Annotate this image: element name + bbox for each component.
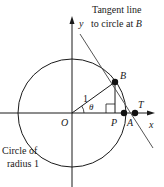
point-t: [132, 110, 138, 116]
point-a: [121, 110, 127, 116]
y-axis-arrow-icon: [70, 16, 75, 24]
label-b: B: [120, 70, 126, 81]
circle-annotation-line2: radius 1: [7, 158, 39, 169]
angle-theta-arc: [82, 106, 84, 113]
label-p: P: [110, 117, 117, 128]
right-angle-marker: [106, 104, 115, 113]
angle-label: θ: [89, 102, 94, 112]
tangent-line: [80, 34, 153, 148]
x-axis-label: x: [148, 119, 154, 130]
point-b: [112, 79, 118, 85]
x-axis-arrow-icon: [147, 111, 155, 116]
label-o: O: [61, 117, 68, 128]
radius-ob: [72, 82, 115, 113]
circle-annotation-line1: Circle of: [2, 145, 38, 156]
label-t: T: [138, 99, 145, 110]
tangent-annotation-line2: to circle at B: [91, 18, 142, 29]
y-axis-label: y: [78, 18, 84, 29]
label-a: A: [126, 117, 134, 128]
tangent-annotation-line1: Tangent line: [92, 4, 142, 15]
unit-circle-tangent-diagram: Tangent line to circle at B y x B O P A …: [0, 0, 164, 187]
radius-label: 1: [83, 93, 88, 104]
